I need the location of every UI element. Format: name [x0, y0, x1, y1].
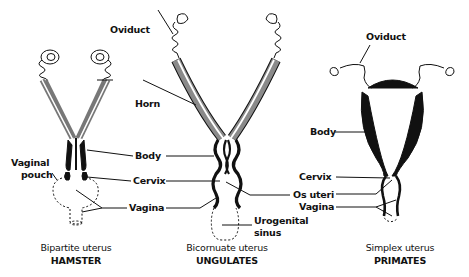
- caption-hamster-group: HAMSTER: [40, 254, 112, 267]
- label-urogenital: Urogenital: [254, 215, 308, 226]
- label-vagina: Vagina: [129, 202, 164, 213]
- label-os-uteri: Os uteri: [293, 189, 334, 200]
- caption-primates: Simplex uterus PRIMATES: [360, 241, 440, 267]
- ungulates-uterus-drawing: [143, 10, 290, 240]
- label-body: Body: [135, 150, 161, 161]
- caption-hamster-type: Bipartite uterus: [40, 241, 112, 254]
- label-horn: Horn: [135, 98, 160, 109]
- caption-hamster: Bipartite uterus HAMSTER: [40, 241, 112, 267]
- label-vaginal: Vaginal: [11, 157, 49, 168]
- label-oviduct-ungulates: Oviduct: [110, 24, 150, 35]
- caption-ungulates-group: UNGULATES: [182, 254, 272, 267]
- label-vagina-primates: Vagina: [299, 201, 334, 212]
- uterus-types-diagram: Vaginal pouch Horn Body Cervix Vagina Ov…: [0, 0, 469, 277]
- caption-ungulates-type: Bicornuate uterus: [182, 241, 272, 254]
- hamster-uterus-drawing: [33, 50, 133, 225]
- caption-ungulates: Bicornuate uterus UNGULATES: [182, 241, 272, 267]
- label-oviduct-primates: Oviduct: [366, 31, 406, 42]
- label-cervix-primates: Cervix: [299, 171, 331, 182]
- caption-primates-group: PRIMATES: [360, 254, 440, 267]
- caption-primates-type: Simplex uterus: [360, 241, 440, 254]
- label-pouch: pouch: [21, 169, 53, 180]
- label-sinus: sinus: [254, 227, 281, 238]
- label-cervix: Cervix: [133, 175, 165, 186]
- label-body-primates: Body: [310, 126, 336, 137]
- primates-uterus-drawing: [330, 45, 454, 222]
